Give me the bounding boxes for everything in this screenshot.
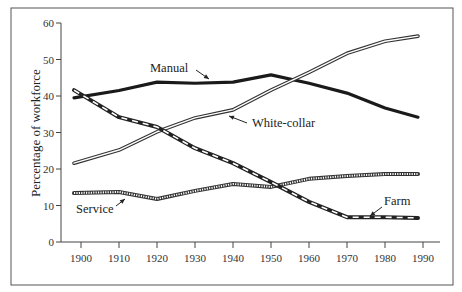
chart-frame bbox=[11, 8, 453, 285]
x-tick-label: 1990 bbox=[412, 252, 435, 264]
x-tick-label: 1960 bbox=[298, 252, 321, 264]
series-label-text: White-collar bbox=[252, 116, 316, 130]
series-label-text: Manual bbox=[150, 61, 189, 75]
series-service bbox=[74, 174, 418, 199]
x-tick-label: 1920 bbox=[146, 252, 169, 264]
y-tick-label: 20 bbox=[43, 163, 55, 175]
y-tick-label: 10 bbox=[43, 200, 55, 212]
series-label-text: Service bbox=[76, 202, 114, 216]
x-tick-label: 1950 bbox=[260, 252, 283, 264]
series-farm bbox=[74, 90, 418, 218]
label-farm: Farm bbox=[370, 194, 411, 216]
x-tick-label: 1900 bbox=[70, 252, 93, 264]
y-tick-label: 30 bbox=[43, 127, 55, 139]
arrowhead-icon bbox=[229, 116, 234, 120]
axes: 0102030405060190019101920193019401950196… bbox=[43, 17, 440, 264]
x-tick-label: 1910 bbox=[108, 252, 131, 264]
x-tick-label: 1980 bbox=[374, 252, 397, 264]
series-lines bbox=[74, 36, 418, 218]
x-tick-label: 1970 bbox=[336, 252, 359, 264]
label-white-collar: White-collar bbox=[229, 116, 316, 130]
series-label-text: Farm bbox=[384, 194, 411, 208]
y-tick-label: 0 bbox=[49, 236, 55, 248]
line-chart: 0102030405060190019101920193019401950196… bbox=[0, 0, 462, 292]
x-tick-label: 1930 bbox=[184, 252, 207, 264]
series-manual bbox=[74, 75, 418, 117]
label-manual: Manual bbox=[150, 61, 209, 79]
x-tick-label: 1940 bbox=[222, 252, 245, 264]
y-tick-label: 60 bbox=[43, 17, 55, 29]
label-service: Service bbox=[76, 199, 125, 216]
arrowhead-icon bbox=[204, 74, 209, 79]
y-tick-label: 50 bbox=[43, 54, 55, 66]
y-tick-label: 40 bbox=[43, 90, 55, 102]
y-axis-title: Percentage of workforce bbox=[28, 69, 43, 197]
